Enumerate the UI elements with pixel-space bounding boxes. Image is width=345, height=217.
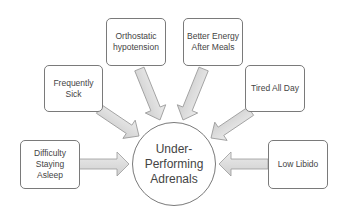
node-label: Low Libido [278, 159, 319, 170]
arrow-libido [219, 152, 268, 176]
node-frequently-sick: Frequently Sick [44, 65, 103, 112]
arrow-orthostatic [129, 65, 170, 124]
node-orthostatic-hypotension: Orthostatic hypotension [106, 18, 166, 66]
node-label: Tired All Day [251, 83, 299, 94]
center-label: Under-Performing Adrenals [137, 142, 211, 187]
node-tired-all-day: Tired All Day [245, 65, 305, 112]
node-difficulty-staying-asleep: Difficulty Staying Asleep [20, 140, 80, 189]
node-better-energy-after-meals: Better Energy After Meals [183, 18, 243, 66]
node-label: Difficulty Staying Asleep [23, 148, 77, 181]
arrow-difficulty [79, 152, 129, 176]
node-label: Better Energy After Meals [186, 31, 240, 53]
node-label: Orthostatic hypotension [109, 31, 163, 53]
node-label: Frequently Sick [47, 78, 100, 100]
node-low-libido: Low Libido [268, 140, 328, 189]
arrow-energy [173, 65, 214, 124]
center-node-under-performing-adrenals: Under-Performing Adrenals [132, 122, 216, 206]
